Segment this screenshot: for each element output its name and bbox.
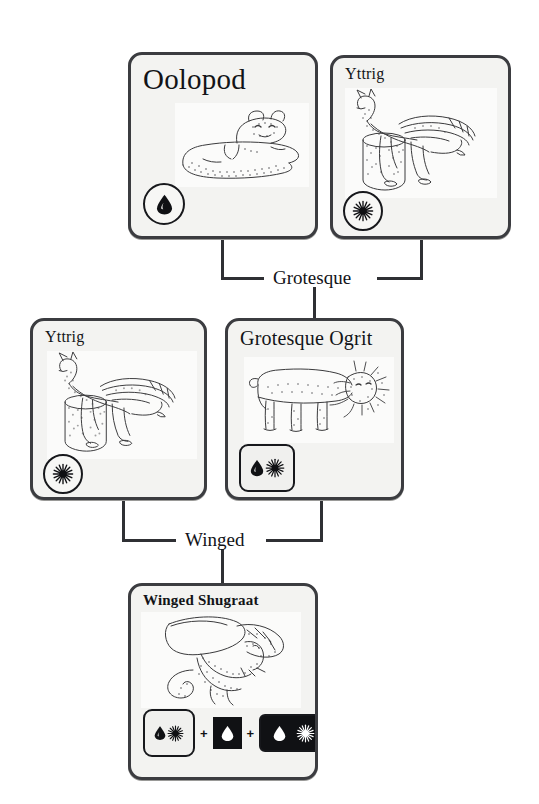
edge-ogrit-down <box>320 499 323 541</box>
creature-art-yttrig-mid <box>47 351 197 459</box>
edge-label-grotesque: Grotesque <box>264 268 360 287</box>
creature-art-yttrig-top <box>345 88 497 198</box>
edge-label-winged: Winged <box>176 530 253 549</box>
lineage-diagram: Grotesque Winged Oolopod <box>0 0 539 804</box>
card-title-grotesque-ogrit: Grotesque Ogrit <box>240 327 372 350</box>
water-drop-icon <box>250 459 264 477</box>
recipe-term-2[interactable] <box>213 717 242 749</box>
water-drop-icon <box>221 725 234 742</box>
recipe-term-3[interactable] <box>259 714 318 752</box>
edge-grotesque-bar-left <box>221 277 266 280</box>
trait-badge-yttrig-top[interactable] <box>343 191 383 231</box>
card-yttrig-mid[interactable]: Yttrig <box>30 318 207 500</box>
water-drop-icon <box>154 725 166 741</box>
starburst-icon <box>352 200 374 222</box>
card-title-yttrig-mid: Yttrig <box>45 328 84 346</box>
edge-grotesque-bar-right <box>377 277 423 280</box>
edge-yttrig-top-down <box>420 237 423 279</box>
starburst-icon <box>167 725 184 742</box>
water-drop-icon <box>273 725 286 742</box>
card-yttrig-top[interactable]: Yttrig <box>330 55 511 239</box>
recipe-operator-2: + <box>246 727 256 740</box>
recipe-formula: + + <box>143 709 318 757</box>
starburst-icon <box>265 458 285 478</box>
creature-art-grotesque-ogrit <box>244 357 394 443</box>
trait-badge-oolopod[interactable] <box>143 183 185 225</box>
edge-winged-bar-right <box>266 539 323 542</box>
starburst-icon <box>52 463 74 485</box>
card-grotesque-ogrit[interactable]: Grotesque Ogrit <box>225 318 404 500</box>
edge-winged-bar-left <box>122 539 178 542</box>
edge-oolopod-down <box>221 237 224 279</box>
card-oolopod[interactable]: Oolopod <box>128 52 318 239</box>
water-drop-icon <box>156 194 173 215</box>
starburst-icon <box>296 724 315 743</box>
recipe-operator-1: + <box>199 727 209 740</box>
card-title-winged-shugraat: Winged Shugraat <box>143 592 259 609</box>
card-title-oolopod: Oolopod <box>143 63 246 96</box>
card-winged-shugraat[interactable]: Winged Shugraat <box>128 583 318 780</box>
trait-badge-grotesque-ogrit[interactable] <box>239 444 295 492</box>
edge-yttrig-mid-down <box>122 499 125 541</box>
creature-art-winged-shugraat <box>141 612 301 708</box>
trait-badge-yttrig-mid[interactable] <box>43 454 83 494</box>
card-title-yttrig-top: Yttrig <box>345 65 384 83</box>
creature-art-oolopod <box>175 103 309 187</box>
recipe-term-1[interactable] <box>143 709 195 757</box>
